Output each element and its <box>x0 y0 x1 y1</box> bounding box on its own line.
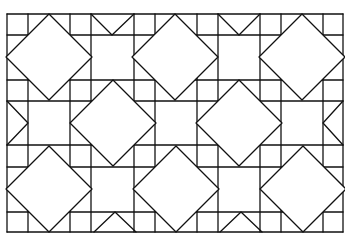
diamond-shape <box>260 146 345 232</box>
edge-triangle-shape <box>94 212 136 232</box>
diamond-shape <box>259 14 345 100</box>
diamond-shape <box>6 14 92 100</box>
edge-triangle-shape <box>220 212 262 232</box>
diamond-shape <box>196 80 282 166</box>
edge-triangle-shape <box>218 14 260 35</box>
tiling-pattern-figure <box>0 0 345 240</box>
edge-triangle-shape <box>323 101 343 145</box>
diamond-shape <box>70 80 156 166</box>
diamond-shape <box>133 146 219 232</box>
edge-triangle-shape <box>7 101 28 145</box>
diamond-shape <box>132 14 218 100</box>
diamond-shape <box>6 146 92 232</box>
pattern-svg <box>0 0 345 240</box>
edge-triangle-shape <box>91 14 134 35</box>
